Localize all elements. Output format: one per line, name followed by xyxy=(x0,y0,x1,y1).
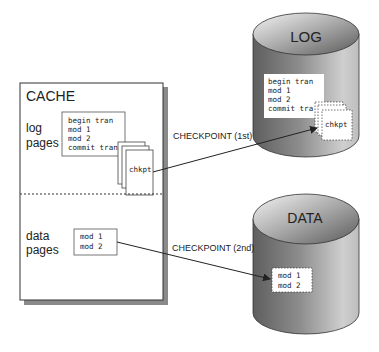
arrow-label-2nd: CHECKPOINT (2nd) xyxy=(172,243,254,253)
cache-panel: CACHE log pages begin tran mod 1 mod 2 c… xyxy=(20,83,168,305)
log-disk-line: commit tra xyxy=(268,104,313,113)
arrow-label-1st: CHECKPOINT (1st) xyxy=(173,131,252,141)
log-pages-label-1: log xyxy=(26,121,42,135)
log-pages-label-2: pages xyxy=(26,136,59,150)
log-disk-line: mod 1 xyxy=(268,86,291,95)
log-chkpt-label: chkpt xyxy=(325,120,348,129)
data-pages-label-2: pages xyxy=(26,243,59,257)
cache-log-line: mod 1 xyxy=(68,125,91,134)
cache-chkpt-label: chkpt xyxy=(129,165,152,174)
cache-data-line: mod 1 xyxy=(80,232,103,241)
cache-log-line: begin tran xyxy=(68,116,113,125)
log-disk-line: begin tran xyxy=(268,77,313,86)
cache-title: CACHE xyxy=(26,88,75,104)
cache-log-line: commit tran xyxy=(68,143,118,152)
cache-data-line: mod 2 xyxy=(80,242,103,251)
data-cylinder: DATA mod 1 mod 2 xyxy=(253,194,359,334)
log-disk-line: mod 2 xyxy=(268,95,291,104)
log-cylinder: LOG begin tran mod 1 mod 2 commit tra ch… xyxy=(253,13,359,157)
cache-log-line: mod 2 xyxy=(68,134,91,143)
data-pages-label-1: data xyxy=(26,229,50,243)
log-cylinder-title: LOG xyxy=(290,28,322,45)
data-cylinder-title: DATA xyxy=(287,210,323,226)
data-disk-line: mod 1 xyxy=(278,271,301,280)
data-disk-line: mod 2 xyxy=(278,281,301,290)
